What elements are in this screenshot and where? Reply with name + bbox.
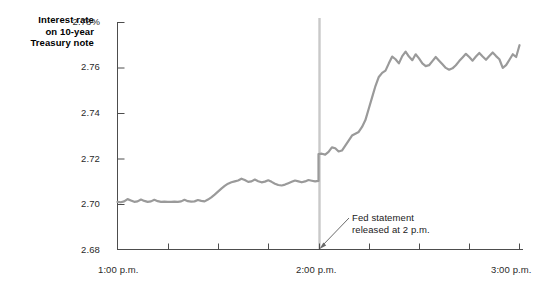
chart-container: Interest rate on 10-year Treasury note 2… bbox=[0, 0, 551, 287]
annotation-arrow bbox=[320, 218, 350, 249]
chart-plot-area bbox=[0, 0, 551, 287]
x-axis-ticks bbox=[169, 244, 520, 250]
y-axis-ticks bbox=[118, 23, 125, 205]
